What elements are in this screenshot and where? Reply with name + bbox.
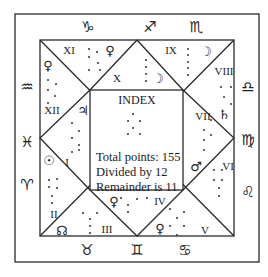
point-dot xyxy=(187,61,189,63)
point-dot xyxy=(145,66,147,68)
point-dot xyxy=(89,225,91,227)
point-dot xyxy=(96,51,98,53)
house-numeral: VII xyxy=(195,111,210,122)
chart-frame xyxy=(0,0,268,277)
jupiter-icon: ♃ xyxy=(77,104,89,117)
point-dot xyxy=(120,197,122,199)
point-dot xyxy=(54,95,56,97)
point-dot xyxy=(78,144,80,146)
house-numeral: V xyxy=(201,225,209,236)
point-dot xyxy=(213,179,215,181)
point-dot xyxy=(230,103,232,105)
index-summary: Total points: 155 Divided by 12 Remainde… xyxy=(96,150,181,195)
point-dot xyxy=(127,120,129,122)
house-numeral: IX xyxy=(165,45,177,56)
house-numeral: II xyxy=(50,209,57,220)
point-dot xyxy=(176,234,178,236)
point-dot xyxy=(230,86,232,88)
venus-icon: ♀ xyxy=(105,44,115,57)
point-dot xyxy=(71,151,73,153)
house-numeral: III xyxy=(102,224,113,235)
point-dot xyxy=(169,208,171,210)
point-dot xyxy=(88,48,90,50)
point-dot xyxy=(145,73,147,75)
point-dot xyxy=(187,54,189,56)
point-dot xyxy=(132,113,134,115)
point-dot xyxy=(47,79,49,81)
point-dot xyxy=(136,198,138,200)
point-dot xyxy=(218,187,220,189)
point-dot xyxy=(56,187,58,189)
point-dot xyxy=(89,218,91,220)
point-dot xyxy=(176,217,178,219)
point-dot xyxy=(203,129,205,131)
point-dot xyxy=(169,225,171,227)
house-numeral: IV xyxy=(154,196,166,207)
point-dot xyxy=(88,56,90,58)
sun-icon: ☉ xyxy=(43,154,55,167)
point-dot xyxy=(183,211,185,213)
venus-icon: ♀ xyxy=(155,222,165,235)
node-icon: ☊ xyxy=(56,224,68,237)
point-dot xyxy=(48,179,50,181)
index-divided-by: Divided by 12 xyxy=(96,165,181,180)
point-dot xyxy=(183,225,185,227)
house-numeral: VI xyxy=(222,161,234,172)
point-dot xyxy=(203,139,205,141)
capricorn-icon: ♑ xyxy=(81,20,94,35)
point-dot xyxy=(218,195,220,197)
point-dot xyxy=(127,204,129,206)
aquarius-icon: ♒ xyxy=(20,80,33,95)
index-total-points: Total points: 155 xyxy=(96,150,181,165)
point-dot xyxy=(220,86,222,88)
point-dot xyxy=(132,127,134,129)
point-dot xyxy=(146,197,148,199)
point-dot xyxy=(145,59,147,61)
moon-icon: ☽ xyxy=(200,45,212,58)
gemini-icon: ♊ xyxy=(130,243,143,258)
point-dot xyxy=(187,67,189,69)
point-dot xyxy=(139,120,141,122)
taurus-icon: ♉ xyxy=(80,243,93,258)
point-dot xyxy=(97,62,99,64)
house-numeral: XI xyxy=(63,45,75,56)
moon-icon: ☽ xyxy=(152,72,164,85)
leo-icon: ♌ xyxy=(241,185,254,200)
point-dot xyxy=(127,133,129,135)
point-dot xyxy=(145,80,147,82)
point-dot xyxy=(47,89,49,91)
point-dot xyxy=(221,179,223,181)
mars-icon: ♂ xyxy=(190,160,202,173)
point-dot xyxy=(71,137,73,139)
point-dot xyxy=(51,202,53,204)
point-dot xyxy=(78,130,80,132)
libra-icon: ♎ xyxy=(241,80,254,95)
point-dot xyxy=(187,74,189,76)
house-numeral: I xyxy=(65,157,69,168)
house-numeral: XII xyxy=(44,105,59,116)
point-dot xyxy=(78,149,80,151)
point-dot xyxy=(203,149,205,151)
pisces-icon: ♓ xyxy=(20,135,33,150)
cancer-icon: ♋ xyxy=(178,243,191,258)
point-dot xyxy=(55,83,57,85)
house-numeral: VIII xyxy=(215,66,234,77)
virgo-icon: ♍ xyxy=(241,133,254,148)
point-dot xyxy=(88,69,90,71)
aries-icon: ♈ xyxy=(20,178,33,193)
point-dot xyxy=(127,211,129,213)
sagittarius-icon: ♐ xyxy=(143,20,156,35)
point-dot xyxy=(139,133,141,135)
point-dot xyxy=(71,122,73,124)
point-dot xyxy=(223,96,225,98)
index-remainder: Remainder is 11 xyxy=(96,180,181,195)
point-dot xyxy=(82,212,84,214)
venus-icon: ♀ xyxy=(43,59,53,72)
saturn-icon: ♄ xyxy=(218,108,230,121)
point-dot xyxy=(96,212,98,214)
house-numeral: X xyxy=(113,73,121,84)
point-dot xyxy=(213,169,215,171)
point-dot xyxy=(48,186,50,188)
point-dot xyxy=(56,178,58,180)
index-title: INDEX xyxy=(118,93,155,108)
